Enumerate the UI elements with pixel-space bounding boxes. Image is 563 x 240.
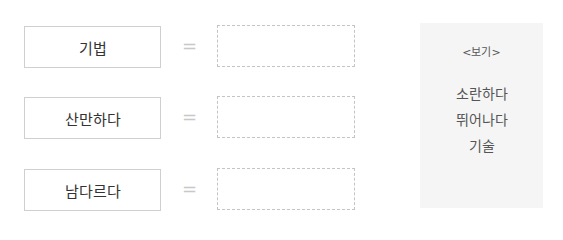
equals-sign: = <box>182 178 197 199</box>
exercise-row-2: 산만하다 = <box>24 97 356 139</box>
example-item: 소란하다 <box>420 81 543 107</box>
equals-sign: = <box>182 35 197 56</box>
answer-blank[interactable] <box>217 168 355 210</box>
word-box: 산만하다 <box>24 97 161 139</box>
example-item: 뛰어나다 <box>420 107 543 133</box>
word-box: 남다르다 <box>24 169 161 211</box>
word-box: 기법 <box>24 26 161 68</box>
example-box: <보기> 소란하다 뛰어나다 기술 <box>420 23 543 208</box>
example-item: 기술 <box>420 133 543 159</box>
exercise-row-3: 남다르다 = <box>24 169 356 211</box>
equals-sign: = <box>182 106 197 127</box>
answer-blank[interactable] <box>217 96 355 138</box>
exercise-row-1: 기법 = <box>24 26 356 68</box>
answer-blank[interactable] <box>217 25 355 67</box>
example-box-title: <보기> <box>420 43 543 59</box>
